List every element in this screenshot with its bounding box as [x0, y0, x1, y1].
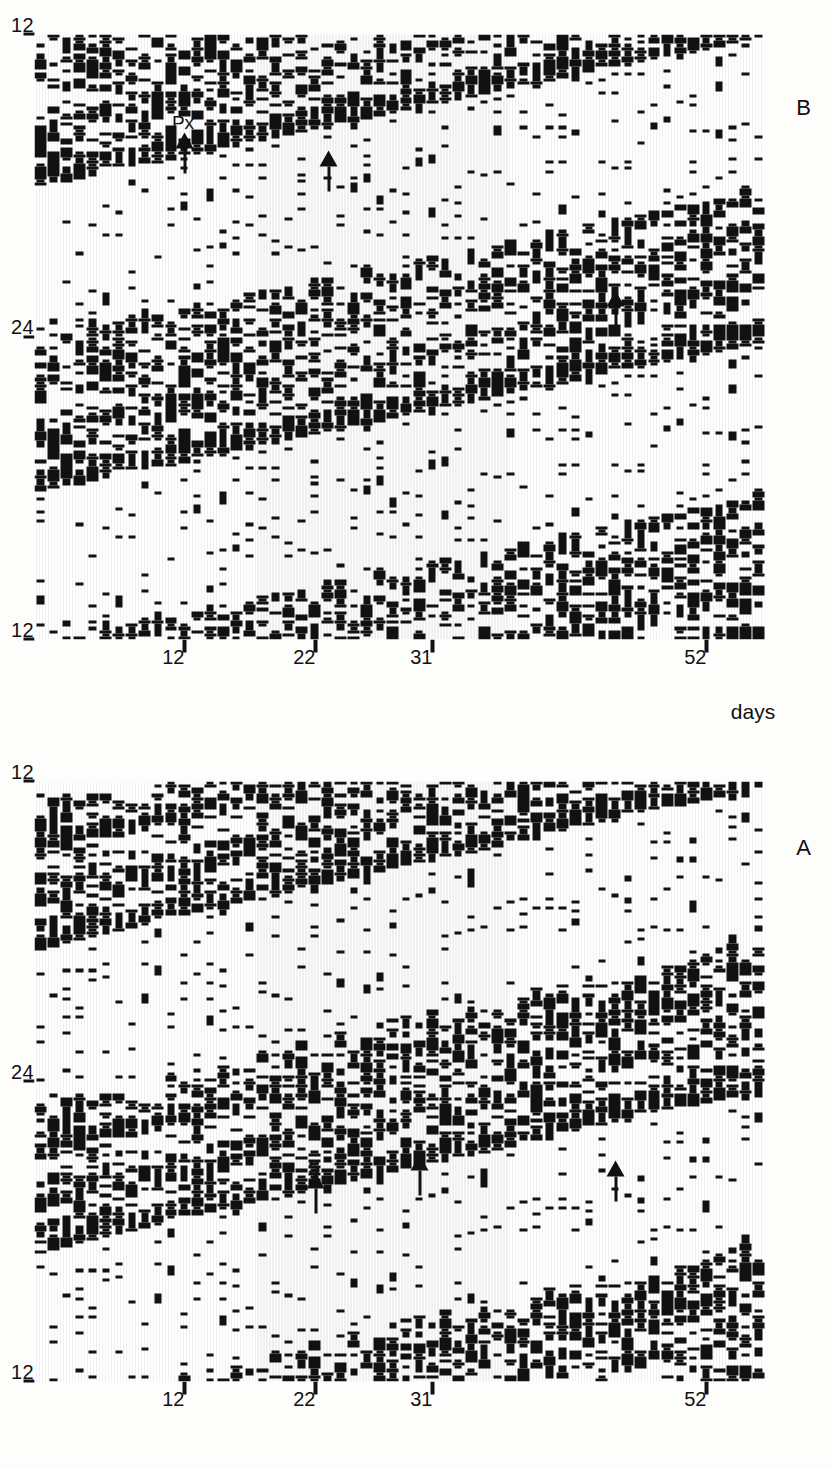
actogram-day-row	[256, 34, 268, 639]
panel-a: 122412 12223152 S A	[0, 747, 833, 1467]
actogram-day-row	[661, 34, 673, 639]
actogram-day-row	[674, 781, 686, 1381]
actogram-day-row	[386, 34, 398, 639]
actogram-day-row	[373, 34, 385, 639]
actogram-day-row	[34, 34, 46, 639]
hour-tick-label: 12	[10, 619, 33, 639]
actogram-day-row	[400, 781, 412, 1381]
panel-a-letter: A	[796, 837, 811, 859]
actogram-day-row	[517, 34, 529, 639]
actogram-day-row	[556, 34, 568, 639]
actogram-day-row	[504, 781, 516, 1381]
actogram-day-row	[648, 34, 660, 639]
day-tick-label: 52	[684, 647, 706, 667]
actogram-day-row	[243, 781, 255, 1381]
actogram-day-row	[595, 781, 607, 1381]
actogram-day-row	[269, 781, 281, 1381]
actogram-day-row	[178, 34, 190, 639]
actogram-day-row	[726, 781, 738, 1381]
actogram-day-row	[413, 34, 425, 639]
actogram-day-row	[426, 781, 438, 1381]
actogram-day-row	[308, 781, 320, 1381]
actogram-day-row	[191, 34, 203, 639]
actogram-day-row	[243, 34, 255, 639]
actogram-day-row	[34, 781, 46, 1381]
actogram-day-row	[47, 34, 59, 639]
hour-tick-label: 12	[10, 1361, 33, 1381]
actogram-day-row	[543, 781, 555, 1381]
actogram-day-row	[165, 781, 177, 1381]
actogram-day-row	[465, 781, 477, 1381]
hour-tick-label: 24	[10, 1061, 33, 1081]
actogram-day-row	[347, 781, 359, 1381]
actogram-day-row	[334, 34, 346, 639]
actogram-day-row	[60, 34, 72, 639]
actogram-day-row	[452, 781, 464, 1381]
actogram-day-row	[165, 34, 177, 639]
actogram-day-row	[112, 34, 124, 639]
actogram-day-row	[739, 34, 751, 639]
panel-b-day-axis: 12223152	[34, 639, 765, 725]
actogram-day-row	[491, 781, 503, 1381]
actogram-day-row	[295, 34, 307, 639]
actogram-day-row	[386, 781, 398, 1381]
actogram-day-row	[347, 34, 359, 639]
days-axis-title: days	[730, 700, 774, 721]
actogram-day-row	[321, 781, 333, 1381]
actogram-day-row	[530, 34, 542, 639]
actogram-day-row	[478, 781, 490, 1381]
actogram-day-row	[634, 781, 646, 1381]
actogram-day-row	[47, 781, 59, 1381]
actogram-day-row	[634, 34, 646, 639]
actogram-day-row	[478, 34, 490, 639]
actogram-day-row	[400, 34, 412, 639]
actogram-day-row	[726, 34, 738, 639]
day-tick-label: 52	[684, 1389, 706, 1409]
actogram-day-row	[360, 781, 372, 1381]
day-tick-label: 12	[162, 1389, 184, 1409]
panel-b-letter: B	[796, 97, 811, 119]
actogram-day-row	[125, 34, 137, 639]
actogram-day-row	[308, 34, 320, 639]
actogram-day-row	[608, 781, 620, 1381]
actogram-day-row	[321, 34, 333, 639]
panel-b-hour-axis: 122412	[0, 34, 34, 639]
actogram-day-row	[230, 34, 242, 639]
actogram-day-row	[452, 34, 464, 639]
actogram-day-row	[687, 34, 699, 639]
actogram-day-row	[556, 781, 568, 1381]
actogram-day-row	[191, 781, 203, 1381]
day-tick-label: 31	[410, 647, 432, 667]
actogram-day-row	[582, 781, 594, 1381]
actogram-day-row	[230, 781, 242, 1381]
actogram-day-row	[439, 34, 451, 639]
actogram-day-row	[334, 781, 346, 1381]
panel-b-plot-area: Px	[34, 34, 765, 639]
actogram-day-row	[282, 34, 294, 639]
actogram-day-row	[138, 781, 150, 1381]
actogram-day-row	[73, 781, 85, 1381]
actogram-day-row	[178, 781, 190, 1381]
actogram-day-row	[269, 34, 281, 639]
actogram-figure: 122412 12223152 S A 122412 12223152 Px B…	[0, 0, 833, 1467]
actogram-day-row	[661, 781, 673, 1381]
actogram-day-row	[700, 781, 712, 1381]
actogram-day-row	[504, 34, 516, 639]
actogram-day-row	[517, 781, 529, 1381]
actogram-day-row	[713, 34, 725, 639]
actogram-day-row	[73, 34, 85, 639]
hour-tick-label: 24	[10, 317, 33, 337]
actogram-day-row	[204, 781, 216, 1381]
day-tick-label: 22	[292, 647, 314, 667]
actogram-day-row	[752, 781, 764, 1381]
rotated-figure-stage: 122412 12223152 S A 122412 12223152 Px B…	[0, 0, 833, 1467]
actogram-day-row	[217, 34, 229, 639]
actogram-day-row	[360, 34, 372, 639]
actogram-day-row	[99, 781, 111, 1381]
actogram-day-row	[752, 34, 764, 639]
panel-b: 122412 12223152 Px B days	[0, 0, 833, 725]
actogram-day-row	[582, 34, 594, 639]
actogram-day-row	[530, 781, 542, 1381]
actogram-day-row	[151, 781, 163, 1381]
actogram-day-row	[700, 34, 712, 639]
